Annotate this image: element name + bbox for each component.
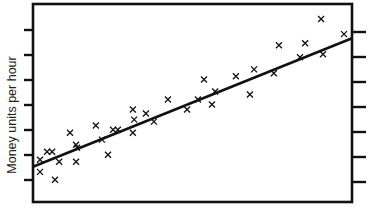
data-point-x-marker (49, 149, 55, 155)
data-point-x-marker (105, 152, 111, 158)
scatter-chart (0, 0, 368, 213)
data-point-x-marker (209, 102, 215, 108)
data-point-x-marker (151, 119, 157, 125)
data-point-x-marker (233, 73, 239, 79)
right-axis-ticks (352, 32, 366, 182)
data-point-x-marker (131, 117, 137, 123)
data-point-x-marker (52, 177, 58, 183)
data-points (37, 16, 347, 183)
data-point-x-marker (73, 159, 79, 165)
data-point-x-marker (67, 130, 73, 136)
data-point-x-marker (93, 123, 99, 129)
data-point-x-marker (302, 40, 308, 46)
data-point-x-marker (184, 107, 190, 113)
data-point-x-marker (271, 70, 277, 76)
data-point-x-marker (143, 110, 149, 116)
data-point-x-marker (165, 96, 171, 102)
data-point-x-marker (247, 91, 253, 97)
data-point-x-marker (201, 76, 207, 82)
data-point-x-marker (320, 51, 326, 57)
data-point-x-marker (318, 16, 324, 22)
data-point-x-marker (37, 157, 43, 163)
data-point-x-marker (251, 66, 257, 72)
trend-line (33, 38, 352, 167)
data-point-x-marker (130, 107, 136, 113)
data-point-x-marker (341, 31, 347, 37)
data-point-x-marker (276, 42, 282, 48)
data-point-x-marker (37, 169, 43, 175)
data-point-x-marker (130, 130, 136, 136)
left-axis-ticks (24, 30, 33, 180)
data-point-x-marker (56, 159, 62, 165)
